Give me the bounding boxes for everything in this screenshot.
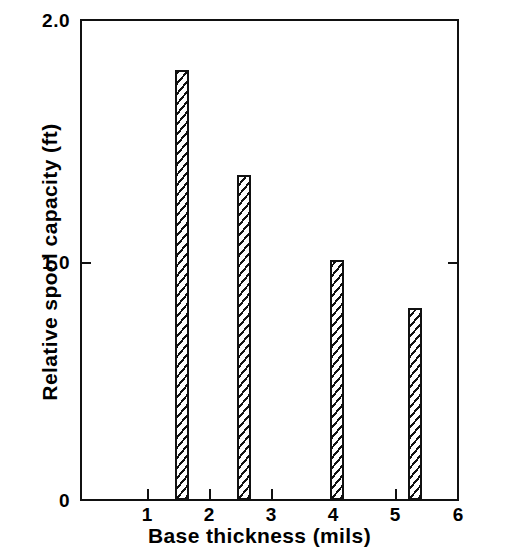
bar [237,175,251,500]
x-axis-title: Base thickness (mils) [0,524,519,548]
y-tick-label-0: 0 [24,491,70,510]
bar [175,70,189,500]
y-tick-mark-1.0 [80,262,91,264]
x-tick-label-5: 5 [380,505,410,524]
x-tick-label-2: 2 [194,505,224,524]
y-axis-title: Relative spool capacity (ft) [38,62,62,462]
chart-figure: 2.0 1.0 0 1 2 3 4 5 6 Base thickness (mi… [0,0,519,555]
x-tick-mark-1 [147,489,149,500]
x-tick-mark-3 [271,489,273,500]
x-tick-mark-2 [209,489,211,500]
plot-area-frame [80,19,459,501]
bar [330,260,344,501]
bar [408,308,422,500]
x-tick-label-3: 3 [256,505,286,524]
y-tick-label-2.0: 2.0 [24,11,70,30]
x-tick-mark-5 [395,489,397,500]
y-tick-mark-right-1.0 [448,262,459,264]
x-tick-label-4: 4 [318,505,348,524]
x-tick-label-6: 6 [443,505,473,524]
x-tick-label-1: 1 [132,505,162,524]
